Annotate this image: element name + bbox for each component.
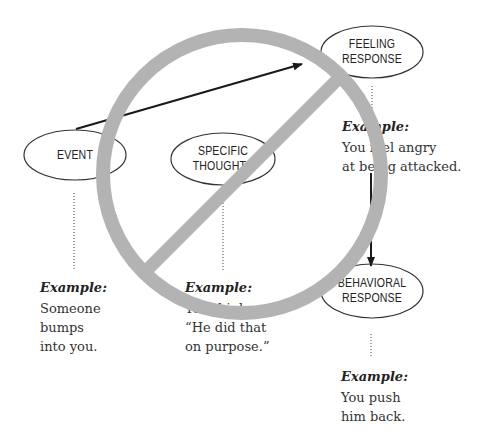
example-label: Example:: [341, 367, 408, 386]
example-line: into you.: [40, 337, 107, 356]
example-line: “He did that: [185, 318, 270, 337]
behavioral-response-example: Example: You push him back.: [341, 367, 408, 426]
example-label: Example:: [40, 278, 107, 297]
behavioral-response-line2: RESPONSE: [328, 291, 416, 306]
behavioral-response-line1: BEHAVIORAL: [328, 276, 416, 291]
example-label: Example:: [185, 278, 270, 297]
specific-thoughts-example: Example: You think, “He did that on purp…: [185, 278, 270, 356]
example-line: at being attacked.: [342, 157, 461, 176]
specific-thoughts-label: SPECIFIC THOUGHTS: [179, 144, 267, 174]
example-line: Someone: [40, 299, 107, 318]
specific-thoughts-line2: THOUGHTS: [179, 159, 267, 174]
feeling-response-label: FEELING RESPONSE: [328, 37, 416, 67]
example-label: Example:: [342, 117, 461, 136]
event-label-line: EVENT: [57, 148, 93, 162]
example-line: him back.: [341, 407, 408, 426]
feeling-response-example: Example: You feel angry at being attacke…: [342, 117, 461, 176]
example-line: You think,: [185, 299, 270, 318]
event-label: EVENT: [31, 148, 119, 163]
specific-thoughts-line1: SPECIFIC: [179, 144, 267, 159]
example-line: You push: [341, 388, 408, 407]
example-line: You feel angry: [342, 138, 461, 157]
behavioral-response-label: BEHAVIORAL RESPONSE: [328, 276, 416, 306]
feeling-response-line2: RESPONSE: [328, 52, 416, 67]
diagram-text-layer: EVENT SPECIFIC THOUGHTS FEELING RESPONSE…: [0, 0, 490, 442]
example-line: bumps: [40, 318, 107, 337]
thinking-model-diagram: EVENT SPECIFIC THOUGHTS FEELING RESPONSE…: [0, 0, 490, 442]
example-line: on purpose.”: [185, 337, 270, 356]
feeling-response-line1: FEELING: [328, 37, 416, 52]
event-example: Example: Someone bumps into you.: [40, 278, 107, 356]
